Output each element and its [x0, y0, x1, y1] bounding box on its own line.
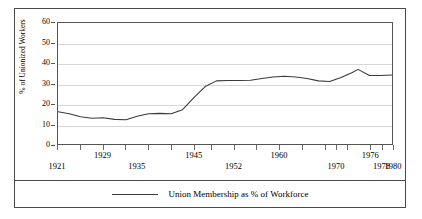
- x-tick-label: 1945: [185, 151, 202, 160]
- y-tick-mark: [51, 22, 55, 23]
- y-tick-mark: [51, 63, 55, 64]
- x-tick-label: 1952: [225, 162, 242, 171]
- x-tick-label: 1980: [385, 162, 402, 171]
- x-tick-label: 1929: [94, 151, 111, 160]
- x-tick-mark: [256, 145, 257, 150]
- x-tick-mark: [382, 145, 383, 150]
- x-tick-mark: [302, 145, 303, 150]
- x-tick-mark: [234, 145, 235, 150]
- x-tick-label: 1960: [271, 151, 288, 160]
- y-tick-mark: [51, 104, 55, 105]
- y-tick-label: 10: [42, 121, 50, 129]
- y-axis-title: % of Unionized Workers: [18, 0, 27, 117]
- x-tick-mark: [57, 145, 58, 150]
- legend-line-swatch: [112, 194, 158, 195]
- x-tick-mark: [211, 145, 212, 150]
- y-tick-label: 40: [42, 59, 50, 67]
- x-tick-mark: [171, 145, 172, 150]
- x-tick-label: 1921: [49, 162, 66, 171]
- x-tick-mark: [325, 145, 326, 150]
- chart-legend: Union Membership as % of Workforce: [14, 180, 406, 208]
- x-tick-mark: [393, 145, 394, 150]
- x-tick-mark: [80, 145, 81, 150]
- y-tick-mark: [51, 145, 55, 146]
- y-tick-label: 20: [42, 100, 50, 108]
- x-tick-mark: [148, 145, 149, 150]
- y-tick-mark: [51, 125, 55, 126]
- series-polyline: [58, 69, 392, 119]
- y-tick-label: 50: [42, 39, 50, 47]
- x-tick-mark: [336, 145, 337, 150]
- x-tick-label: 1970: [328, 162, 345, 171]
- x-tick-label: 1976: [362, 151, 379, 160]
- y-tick-mark: [51, 43, 55, 44]
- legend-entry: Union Membership as % of Workforce: [14, 189, 406, 199]
- plot-area: [57, 22, 393, 145]
- legend-label: Union Membership as % of Workforce: [169, 189, 309, 199]
- x-tick-mark: [347, 145, 348, 150]
- line-series-union-membership: [58, 23, 392, 144]
- x-tick-mark: [125, 145, 126, 150]
- chart-figure: % of Unionized Workers 0102030405060 192…: [0, 0, 422, 219]
- y-tick-label: 60: [42, 18, 50, 26]
- x-tick-label: 1935: [128, 162, 145, 171]
- y-tick-mark: [51, 84, 55, 85]
- y-tick-label: 0: [46, 141, 50, 149]
- y-axis-tick-labels: 0102030405060: [30, 18, 54, 149]
- y-tick-label: 30: [42, 80, 50, 88]
